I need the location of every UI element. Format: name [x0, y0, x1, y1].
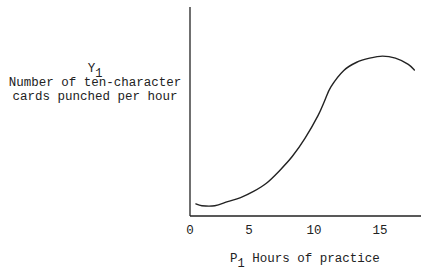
x-tick-5: 5	[245, 224, 253, 238]
x-axis-label: P1 Hours of practice	[230, 252, 380, 266]
x-tick-10: 10	[306, 224, 321, 238]
x-tick-0: 0	[186, 224, 194, 238]
x-tick-15: 15	[372, 224, 387, 238]
learning-curve-line	[195, 56, 414, 206]
